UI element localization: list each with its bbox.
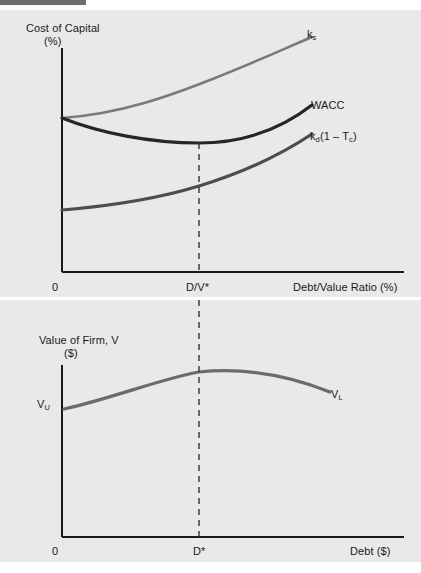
top-y-axis-label: Cost of Capital <box>26 22 100 35</box>
ks-curve-label: ks <box>307 28 316 41</box>
kd-label-close: ) <box>353 130 357 142</box>
bottom-y-axis-label: Value of Firm, V <box>39 334 119 347</box>
top-optimum-tick-label: D/V* <box>186 281 209 294</box>
bottom-origin-label: 0 <box>52 545 58 558</box>
figure-page: Cost of Capital (%) ks WACC kd(1 – Tc) 0… <box>0 0 421 573</box>
vl-label-subscript: L <box>338 393 342 402</box>
ks-label-base: k <box>307 28 313 40</box>
scan-edge-artifact <box>0 0 86 5</box>
bottom-y-axis-unit: ($) <box>64 347 78 360</box>
unlevered-value-label: VU <box>37 398 50 411</box>
kd-label-subscript: d <box>316 135 320 144</box>
top-chart-panel <box>0 10 421 297</box>
levered-value-label: VL <box>331 388 343 401</box>
wacc-curve-label: WACC <box>311 99 345 112</box>
bottom-x-axis-label: Debt ($) <box>350 545 391 558</box>
top-origin-label: 0 <box>52 281 58 294</box>
kd-label-base: k <box>310 130 316 142</box>
vu-label-subscript: U <box>44 403 50 412</box>
kd-label-subscript-tax: c <box>349 135 353 144</box>
kd-curve-label: kd(1 – Tc) <box>310 130 357 143</box>
top-x-axis-label: Debt/Value Ratio (%) <box>293 281 398 294</box>
bottom-optimum-tick-label: D* <box>193 545 205 558</box>
ks-label-subscript: s <box>313 33 317 42</box>
top-y-axis-unit: (%) <box>44 35 61 48</box>
kd-label-open: (1 – T <box>320 130 349 142</box>
